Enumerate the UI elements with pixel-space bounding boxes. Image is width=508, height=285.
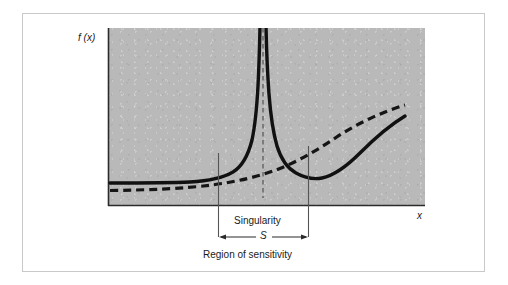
figure-root: f (x) x Singularity S Region of sensitiv…	[0, 0, 508, 285]
dimension-label-s: S	[260, 231, 267, 241]
y-axis-label: f (x)	[78, 33, 95, 43]
singularity-label: Singularity	[234, 216, 281, 226]
x-axis-label: x	[417, 211, 422, 221]
reference-curve-dashed	[110, 105, 405, 191]
figure-graphics	[0, 0, 508, 285]
dimension-arrowhead-right	[301, 235, 308, 240]
singular-curve-left-branch	[110, 26, 260, 183]
region-of-sensitivity-label: Region of sensitivity	[203, 250, 292, 260]
singular-curve-right-branch	[266, 26, 405, 179]
dimension-arrowhead-left	[219, 235, 226, 240]
